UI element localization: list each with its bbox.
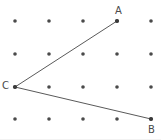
grid-dot [115,85,119,89]
point-label-b: B [148,125,155,135]
grid-dot [47,19,51,23]
grid-dot [81,52,85,56]
grid-dot [149,19,153,23]
grid-dot [149,85,153,89]
ray-ca [15,21,117,87]
grid-dot [47,52,51,56]
ray-cb [15,87,151,119]
point-a-marker [115,19,119,23]
bottom-divider [0,139,161,140]
grid-dot [149,52,153,56]
dot-grid-angle-figure: A B C [0,0,161,140]
geometry-canvas [0,0,161,140]
grid-dot [115,117,119,121]
grid-dot [115,52,119,56]
grid-dot [13,52,17,56]
grid-dot [13,19,17,23]
grid-dot [13,117,17,121]
point-b-marker [149,117,153,121]
angle-vertices-layer [13,19,153,121]
grid-dot [81,85,85,89]
grid-dot [47,117,51,121]
grid-dot [81,19,85,23]
grid-dot [81,117,85,121]
grid-dot [47,85,51,89]
point-c-marker [13,85,17,89]
point-label-c: C [2,81,9,91]
angle-rays-layer [15,21,151,119]
dot-grid-layer [13,19,153,121]
point-label-a: A [115,6,122,16]
